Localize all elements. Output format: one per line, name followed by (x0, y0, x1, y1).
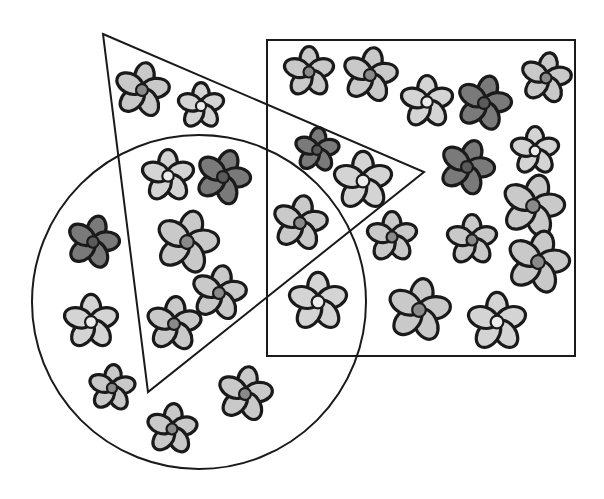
flower-center (238, 387, 252, 401)
venn-flower-diagram (0, 0, 604, 499)
flower-center (107, 383, 118, 394)
flower-center (212, 286, 226, 300)
flower-center (387, 232, 398, 243)
flower-center (467, 235, 478, 246)
flower-center (312, 296, 325, 309)
flower-center (421, 96, 432, 107)
flower-center (540, 72, 553, 85)
flower-center (357, 175, 370, 188)
flower-center (491, 316, 504, 329)
flower-center (530, 146, 541, 157)
flower-center (162, 170, 173, 181)
flower-center (168, 318, 181, 331)
flower-center (363, 68, 377, 82)
flower-center (312, 145, 322, 155)
flower-center (411, 302, 427, 318)
flower-center (196, 101, 206, 111)
flower-center (85, 316, 97, 328)
flower-center (304, 67, 315, 78)
flower-center (293, 216, 307, 230)
flower-center (135, 83, 149, 97)
flower-center (166, 423, 178, 435)
